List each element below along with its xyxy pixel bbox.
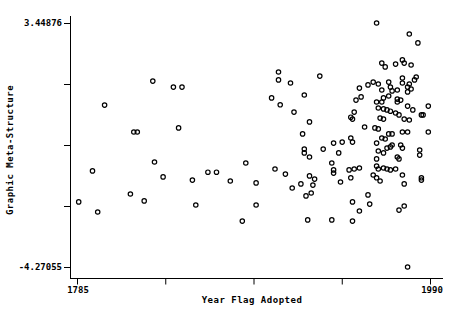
- data-point: [387, 94, 391, 98]
- data-point: [390, 89, 394, 93]
- data-point: [357, 86, 361, 90]
- data-point: [309, 191, 313, 195]
- x-axis-min-label: 1785: [67, 285, 89, 295]
- data-point: [128, 192, 132, 196]
- x-axis: 1785 1990 Year Flag Adopted: [67, 279, 443, 306]
- data-point: [194, 203, 198, 207]
- data-point: [426, 130, 430, 134]
- data-point: [397, 208, 401, 212]
- data-point: [350, 219, 354, 223]
- data-point: [407, 118, 411, 122]
- data-point: [411, 108, 415, 112]
- data-point: [312, 177, 316, 181]
- data-point: [96, 210, 100, 214]
- data-point: [288, 81, 292, 85]
- scatter-plot-figure: 3.44876 -4.27055 Graphic Meta-Structure …: [0, 0, 457, 320]
- data-point: [350, 200, 354, 204]
- data-point: [357, 166, 361, 170]
- data-point: [381, 151, 385, 155]
- data-point: [416, 41, 420, 45]
- data-point: [352, 110, 356, 114]
- data-point: [307, 155, 311, 159]
- y-axis-min-label: -4.27055: [19, 262, 62, 272]
- data-point: [368, 202, 372, 206]
- data-point: [374, 141, 378, 145]
- data-point: [400, 173, 404, 177]
- data-point: [244, 161, 248, 165]
- data-point: [254, 203, 258, 207]
- data-point: [347, 168, 351, 172]
- data-point: [340, 140, 344, 144]
- scatter-points: [77, 21, 431, 269]
- data-point: [387, 80, 391, 84]
- data-point: [318, 74, 322, 78]
- data-point: [376, 149, 380, 153]
- data-point: [349, 176, 353, 180]
- data-point: [299, 182, 303, 186]
- data-point: [161, 175, 165, 179]
- data-point: [371, 80, 375, 84]
- data-point: [418, 148, 422, 152]
- data-point: [402, 204, 406, 208]
- data-point: [378, 179, 382, 183]
- data-point: [393, 62, 397, 66]
- data-point: [307, 174, 311, 178]
- data-point: [337, 151, 341, 155]
- data-point: [190, 178, 194, 182]
- data-point: [376, 106, 380, 110]
- y-axis-ticks: [64, 24, 71, 268]
- data-point: [409, 63, 413, 67]
- data-point: [383, 65, 387, 69]
- data-point: [283, 172, 287, 176]
- data-point: [269, 96, 273, 100]
- data-point: [354, 98, 358, 102]
- data-point: [380, 100, 384, 104]
- data-point: [180, 85, 184, 89]
- data-point: [151, 79, 155, 83]
- data-point: [304, 194, 308, 198]
- data-point: [306, 218, 310, 222]
- data-point: [176, 126, 180, 130]
- data-point: [366, 193, 370, 197]
- data-point: [90, 169, 94, 173]
- data-point: [330, 218, 334, 222]
- x-axis-title: Year Flag Adopted: [202, 295, 303, 305]
- data-point: [321, 147, 325, 151]
- data-point: [376, 82, 380, 86]
- data-point: [405, 265, 409, 269]
- data-point: [77, 200, 81, 204]
- data-point: [330, 161, 334, 165]
- data-point: [405, 130, 409, 134]
- data-point: [307, 120, 311, 124]
- data-point: [254, 181, 258, 185]
- data-point: [276, 70, 280, 74]
- data-point: [426, 104, 430, 108]
- data-point: [393, 167, 397, 171]
- data-point: [380, 88, 384, 92]
- x-axis-max-label: 1990: [421, 285, 443, 295]
- data-point: [276, 78, 280, 82]
- data-point: [331, 141, 335, 145]
- data-point: [338, 180, 342, 184]
- data-point: [152, 160, 156, 164]
- data-point: [290, 186, 294, 190]
- data-point: [400, 130, 404, 134]
- x-axis-ticks: [78, 279, 431, 285]
- data-point: [418, 153, 422, 157]
- data-point: [273, 167, 277, 171]
- data-point: [400, 76, 404, 80]
- data-point: [374, 157, 378, 161]
- data-point: [102, 103, 106, 107]
- data-point: [395, 88, 399, 92]
- data-point: [350, 140, 354, 144]
- data-point: [214, 170, 218, 174]
- y-axis: 3.44876 -4.27055 Graphic Meta-Structure: [5, 16, 71, 279]
- chart-canvas: 3.44876 -4.27055 Graphic Meta-Structure …: [0, 0, 457, 320]
- data-point: [357, 209, 361, 213]
- data-point: [228, 179, 232, 183]
- y-axis-title: Graphic Meta-Structure: [5, 85, 15, 215]
- data-point: [374, 100, 378, 104]
- data-point: [302, 93, 306, 97]
- data-point: [292, 110, 296, 114]
- data-point: [405, 104, 409, 108]
